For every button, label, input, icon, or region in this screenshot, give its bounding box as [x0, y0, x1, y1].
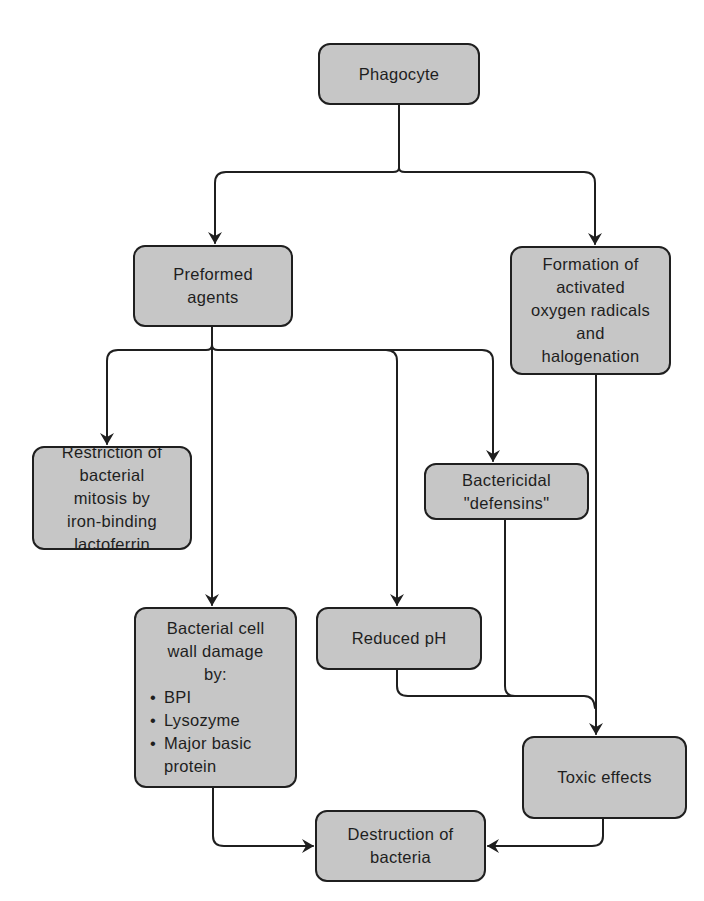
node-label: halogenation: [541, 345, 639, 368]
bullet-item: •BPI: [150, 686, 252, 709]
node-phagocyte: Phagocyte: [318, 43, 480, 105]
bullet-item: •Lysozyme: [150, 709, 252, 732]
node-label: Restriction of: [62, 441, 163, 464]
edge-preformed-to-lactoferrin: [107, 345, 212, 444]
node-label: Toxic effects: [557, 766, 651, 789]
node-label: Phagocyte: [359, 63, 440, 86]
node-toxic-effects: Toxic effects: [522, 736, 687, 819]
node-label: by:: [204, 663, 227, 686]
node-label: Bacterial cell: [167, 617, 265, 640]
edge-phagocyte-to-oxygen-radicals: [399, 168, 595, 244]
node-label: oxygen radicals: [531, 299, 650, 322]
edge-defensins-to-toxic: [505, 519, 515, 696]
bullet-label: Lysozyme: [164, 711, 240, 729]
bullet-icon: •: [150, 732, 164, 755]
node-label: mitosis by: [74, 487, 150, 510]
node-label: agents: [187, 286, 238, 309]
node-label: iron-binding: [67, 510, 157, 533]
edge-preformed-to-defensins: [386, 350, 493, 461]
edge-preformed-to-reduced-ph: [212, 345, 397, 605]
bullet-item: •Major basic protein: [150, 732, 252, 778]
node-label: Formation of: [542, 253, 638, 276]
bullet-continuation: protein: [150, 755, 252, 778]
node-label: Preformed: [173, 263, 253, 286]
agent-bullet-list: •BPI •Lysozyme •Major basic protein: [142, 686, 252, 778]
bullet-icon: •: [150, 709, 164, 732]
bullet-icon: •: [150, 686, 164, 709]
node-label: Bactericidal: [462, 469, 551, 492]
node-label: lactoferrin: [74, 533, 150, 556]
node-oxygen-radicals: Formation of activated oxygen radicals a…: [510, 246, 671, 375]
bullet-label: BPI: [164, 688, 192, 706]
node-label: bacterial: [79, 464, 144, 487]
node-label: and: [576, 322, 604, 345]
node-label: "defensins": [464, 492, 550, 515]
node-label: bacteria: [370, 846, 431, 869]
node-cell-wall-damage: Bacterial cell wall damage by: •BPI •Lys…: [134, 607, 297, 788]
node-label: Destruction of: [348, 823, 454, 846]
phagocyte-killing-flowchart: Phagocyte Preformed agents Formation of …: [0, 0, 704, 901]
node-defensins: Bactericidal "defensins": [424, 463, 589, 520]
edge-phagocyte-to-preformed: [215, 168, 399, 243]
node-preformed-agents: Preformed agents: [133, 245, 293, 327]
node-destruction-of-bacteria: Destruction of bacteria: [315, 810, 486, 882]
node-label: wall damage: [168, 640, 264, 663]
node-reduced-ph: Reduced pH: [316, 607, 482, 670]
node-label: activated: [556, 276, 625, 299]
node-label: Reduced pH: [352, 627, 447, 650]
node-lactoferrin: Restriction of bacterial mitosis by iron…: [32, 446, 192, 550]
edge-cell-wall-to-destruction: [213, 788, 313, 846]
bullet-label: Major basic: [164, 734, 252, 752]
edge-reduced-ph-to-toxic: [397, 670, 595, 708]
edge-toxic-to-destruction: [488, 819, 603, 846]
